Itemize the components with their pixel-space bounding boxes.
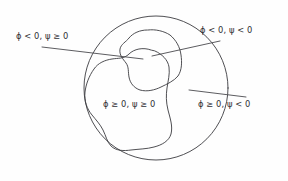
- psi-level-set-curve: [120, 30, 182, 91]
- leader-line-upper-left: [42, 47, 143, 59]
- region-label-phi-neg-psi-neg: ϕ < 0, ψ < 0: [200, 25, 252, 35]
- leader-line-upper-right: [152, 41, 220, 56]
- domain-circle: [84, 16, 228, 160]
- region-label-phi-neg-psi-nonneg: ϕ < 0, ψ ≥ 0: [16, 31, 68, 41]
- region-label-phi-nonneg-psi-nonneg: ϕ ≥ 0, ψ ≥ 0: [103, 99, 155, 109]
- figure-root: ϕ < 0, ψ ≥ 0 ϕ < 0, ψ < 0 ϕ ≥ 0, ψ ≥ 0 ϕ…: [0, 0, 288, 181]
- leader-line-lower-right: [189, 90, 246, 97]
- region-label-phi-nonneg-psi-neg: ϕ ≥ 0, ψ < 0: [198, 99, 250, 109]
